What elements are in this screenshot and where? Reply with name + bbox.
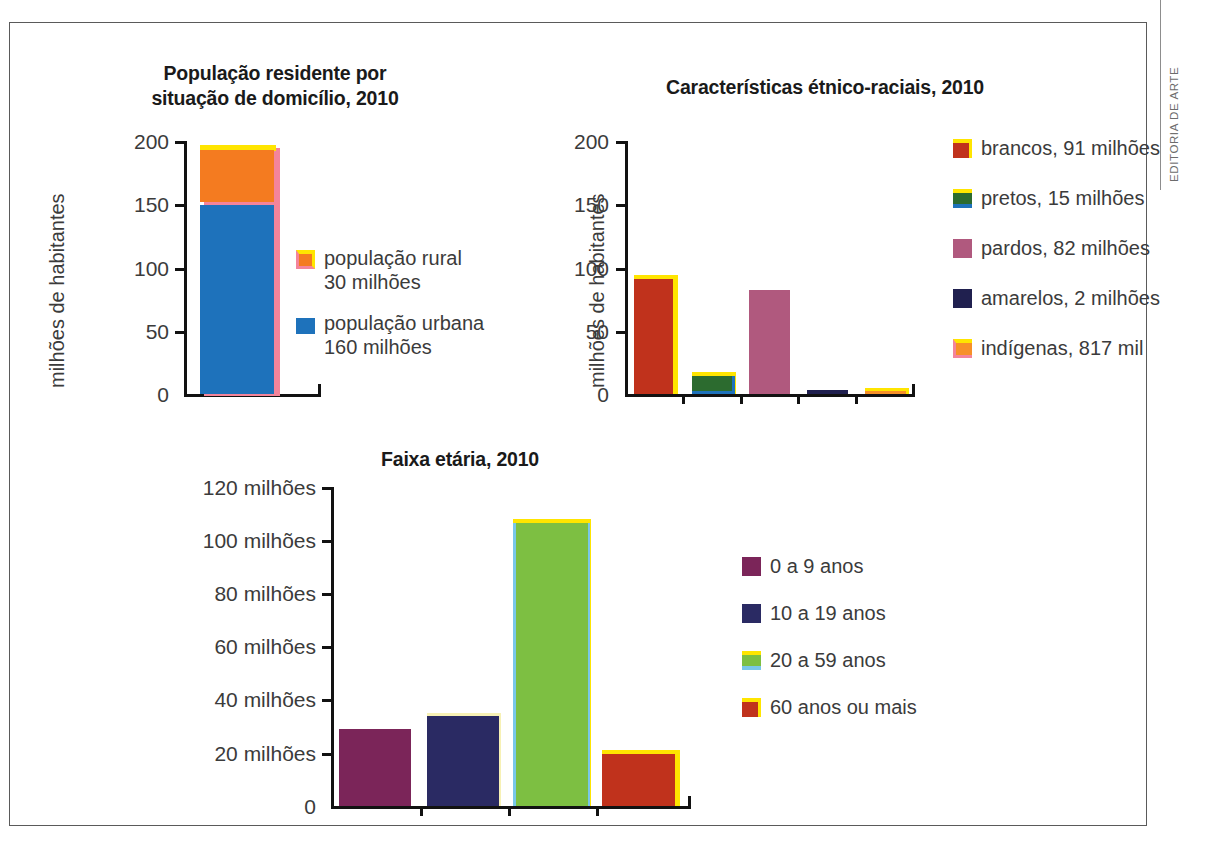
chart-3-ytick-60 (322, 646, 332, 649)
chart-2-title: Características étnico-raciais, 2010 (555, 75, 1095, 100)
chart-2-legend-label-brancos: brancos, 91 milhões (981, 136, 1160, 161)
chart-2-ylabel-200: 200 (535, 131, 609, 152)
legend-swatch-pardos (953, 239, 972, 258)
chart-1-ylabel-200: 200 (95, 131, 169, 152)
chart-1-legend-item-urbana[interactable]: população urbana 160 milhões (296, 311, 484, 359)
figure-frame: População residente por situação de domi… (9, 22, 1147, 826)
legend-swatch-populacao-urbana (296, 318, 315, 334)
chart-3-legend-label-0a9: 0 a 9 anos (770, 554, 863, 579)
chart-3-legend-label-60mais: 60 anos ou mais (770, 695, 917, 720)
chart-2-xtick-1 (682, 394, 685, 404)
chart-3-ytick-20 (322, 753, 332, 756)
chart-2-x-axis (625, 394, 915, 397)
page-top-cut-text (40, 0, 1040, 7)
chart-2-ytick-150 (616, 204, 626, 207)
chart-2-xtick-4 (855, 394, 858, 404)
legend-swatch-populacao-rural (296, 250, 315, 269)
credit-line: EDITORIA DE ARTE (1168, 12, 1186, 182)
chart-2-legend-item-pretos[interactable]: pretos, 15 milhões (953, 186, 1144, 211)
chart-2-ylabel-0: 0 (535, 384, 609, 405)
chart-1-ytick-150 (175, 204, 185, 207)
chart-3-ytick-120 (322, 487, 332, 490)
chart-3-legend-label-20a59: 20 a 59 anos (770, 648, 886, 673)
chart-2-xtick-3 (797, 394, 800, 404)
chart-1-title: População residente por situação de domi… (65, 61, 485, 111)
legend-swatch-10-a-19-anos (742, 604, 761, 623)
chart-3-ytick-100 (322, 540, 332, 543)
chart-1-x-axis-right-cap (318, 384, 321, 396)
figure-page: EDITORIA DE ARTE População residente por… (0, 0, 1210, 858)
chart-3-legend-item-0a9[interactable]: 0 a 9 anos (742, 554, 863, 579)
chart-caracteristicas-etnico-raciais: Características étnico-raciais, 2010 mil… (555, 23, 1145, 423)
chart-3-x-axis (331, 806, 691, 809)
chart-3-legend-label-10a19: 10 a 19 anos (770, 601, 886, 626)
chart-2-legend-item-indigenas[interactable]: indígenas, 817 mil (953, 336, 1143, 361)
chart-3-ylabel-120: 120 milhões (130, 477, 316, 498)
chart-1-ytick-100 (175, 268, 185, 271)
chart-3-ylabel-0: 0 (130, 796, 316, 817)
chart-2-legend-item-brancos[interactable]: brancos, 91 milhões (953, 136, 1160, 161)
chart-3-legend-item-20a59[interactable]: 20 a 59 anos (742, 648, 886, 673)
chart-2-legend-label-indigenas: indígenas, 817 mil (981, 336, 1143, 361)
chart-3-ylabel-100: 100 milhões (130, 530, 316, 551)
chart-1-ylabel-0: 0 (95, 384, 169, 405)
chart-2-bar-pretos[interactable] (692, 376, 732, 391)
chart-1-bar-segment-urbana[interactable] (200, 205, 274, 394)
chart-3-bar-20a59[interactable] (516, 523, 588, 806)
credit-divider-rule (1160, 0, 1161, 190)
chart-1-x-axis-left-cap (184, 384, 187, 396)
chart-3-ylabel-60: 60 milhões (130, 636, 316, 657)
chart-1-ytick-200 (175, 141, 185, 144)
chart-2-ytick-50 (616, 331, 626, 334)
chart-populacao-residente: População residente por situação de domi… (10, 23, 570, 423)
chart-2-ytick-100 (616, 268, 626, 271)
legend-swatch-amarelos (953, 289, 972, 308)
chart-2-bar-amarelos[interactable] (807, 390, 848, 394)
chart-2-ylabel-150: 150 (535, 194, 609, 215)
chart-2-ytick-200 (616, 141, 626, 144)
chart-2-ylabel-100: 100 (535, 258, 609, 279)
chart-3-title: Faixa etária, 2010 (290, 447, 630, 472)
chart-3-legend-item-10a19[interactable]: 10 a 19 anos (742, 601, 886, 626)
chart-1-legend-label-urbana: população urbana 160 milhões (324, 311, 484, 359)
chart-2-x-axis-right-cap (912, 384, 915, 396)
chart-3-ylabel-20: 20 milhões (130, 743, 316, 764)
chart-3-x-axis-right-cap (688, 796, 691, 808)
chart-1-ytick-50 (175, 331, 185, 334)
chart-3-xtick-2 (508, 806, 511, 816)
chart-3-ytick-80 (322, 593, 332, 596)
legend-swatch-20-a-59-anos (742, 651, 761, 670)
chart-2-ylabel-50: 50 (535, 321, 609, 342)
legend-swatch-0-a-9-anos (742, 557, 761, 576)
chart-2-legend-item-amarelos[interactable]: amarelos, 2 milhões (953, 286, 1160, 311)
chart-2-legend-label-pardos: pardos, 82 milhões (981, 236, 1150, 261)
chart-2-bar-pardos[interactable] (749, 290, 790, 394)
chart-3-bar-10a19[interactable] (427, 716, 499, 806)
chart-3-legend-item-60mais[interactable]: 60 anos ou mais (742, 695, 917, 720)
chart-2-legend-label-pretos: pretos, 15 milhões (981, 186, 1144, 211)
chart-1-ylabel-150: 150 (95, 194, 169, 215)
chart-3-ytick-40 (322, 699, 332, 702)
chart-1-yaxis-label: milhões de habitantes (47, 173, 67, 388)
legend-swatch-indigenas (953, 339, 972, 358)
chart-2-x-axis-left-cap (625, 384, 628, 396)
chart-2-legend-label-amarelos: amarelos, 2 milhões (981, 286, 1160, 311)
chart-3-xtick-3 (596, 806, 599, 816)
chart-3-ylabel-40: 40 milhões (130, 689, 316, 710)
chart-3-bar-60mais[interactable] (602, 754, 675, 806)
chart-2-bar-indigenas[interactable] (865, 391, 906, 394)
chart-3-x-axis-left-cap (331, 796, 334, 808)
chart-1-ylabel-100: 100 (95, 258, 169, 279)
chart-1-ylabel-50: 50 (95, 321, 169, 342)
chart-3-xtick-1 (420, 806, 423, 816)
chart-1-bar-segment-rural[interactable] (200, 150, 274, 202)
legend-swatch-pretos (953, 189, 972, 208)
chart-1-legend-item-rural[interactable]: população rural 30 milhões (296, 246, 462, 294)
chart-3-ylabel-80: 80 milhões (130, 583, 316, 604)
chart-3-bar-0a9[interactable] (339, 729, 411, 806)
chart-1-legend-label-rural: população rural 30 milhões (324, 246, 462, 294)
chart-2-bar-brancos[interactable] (634, 279, 673, 394)
chart-2-legend-item-pardos[interactable]: pardos, 82 milhões (953, 236, 1150, 261)
chart-faixa-etaria: Faixa etária, 2010 120 milhões 100 milhõ… (130, 423, 1030, 823)
legend-swatch-brancos (953, 139, 972, 158)
